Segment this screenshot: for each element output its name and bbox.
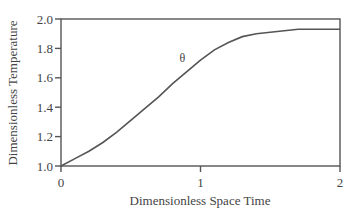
x-axis-label: Dimensionless Space Time	[130, 193, 271, 208]
y-tick-label: 1.0	[37, 159, 53, 174]
x-tick-label: 1	[197, 175, 204, 190]
line-chart: 0121.01.21.41.61.82.0 θ Dimensionless Sp…	[0, 0, 361, 213]
y-tick-label: 2.0	[37, 12, 53, 27]
y-tick-label: 1.8	[37, 41, 53, 56]
x-tick-label: 2	[337, 175, 344, 190]
y-tick-label: 1.6	[37, 70, 54, 85]
y-tick-label: 1.4	[37, 100, 54, 115]
axes: 0121.01.21.41.61.82.0	[37, 12, 344, 191]
y-axis-label: Dimensionless Temperature	[5, 20, 20, 165]
y-tick-label: 1.2	[37, 129, 53, 144]
plot-frame	[61, 19, 340, 166]
chart: 0121.01.21.41.61.82.0 θ Dimensionless Sp…	[0, 0, 361, 213]
theta-annotation: θ	[180, 51, 186, 65]
theta-curve	[61, 29, 340, 166]
x-tick-label: 0	[58, 175, 65, 190]
